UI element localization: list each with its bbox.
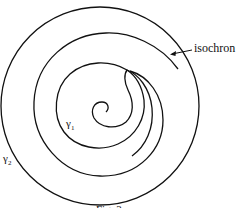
spiral-diagram: [0, 0, 242, 208]
isochron-label: isochron: [194, 41, 235, 56]
figure-caption: Fig. 3: [96, 203, 122, 208]
isochron-inner-curl: [92, 70, 132, 127]
gamma1-label: γ1: [66, 117, 74, 132]
caption-text: Fig. 3: [96, 203, 122, 208]
gamma1-subscript: 1: [71, 124, 75, 132]
limit-cycle-gamma1: [56, 63, 144, 148]
gamma2-subscript: 2: [8, 159, 12, 167]
arrowhead-icon: [170, 51, 176, 56]
gamma2-label: γ2: [3, 152, 11, 167]
isochron-text: isochron: [194, 41, 235, 55]
isochron-outer-arc: [34, 33, 178, 176]
limit-cycle-gamma2: [1, 7, 199, 205]
